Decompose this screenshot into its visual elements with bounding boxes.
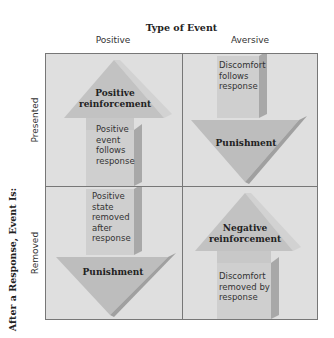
cell-label: Punishment (203, 138, 289, 149)
cell-description-line: response (219, 292, 270, 303)
consequence-matrix: Positive reinforcement Positive event fo… (45, 53, 318, 320)
cell-punishment-removed: Positive state removed after response Pu… (46, 187, 182, 319)
cell-description-line: event (96, 135, 135, 146)
row-axis-title: After a Response, Event Is: (7, 120, 18, 338)
cell-negative-reinforcement: Negative reinforcement Discomfort remove… (183, 187, 319, 319)
cell-description-line: response (219, 81, 266, 92)
cell-description-line: response (92, 233, 131, 244)
cell-description-line: removed by (219, 282, 270, 293)
cell-description-line: removed (92, 212, 131, 223)
column-label-positive: Positive (45, 35, 181, 45)
cell-description-line: Discomfort (219, 60, 266, 71)
column-label-aversive: Aversive (182, 35, 318, 45)
cell-description-line: Positive (92, 191, 131, 202)
cell-label-line: reinforcement (199, 234, 291, 245)
cell-description-line: Positive (96, 124, 135, 135)
cell-label-line: Positive (70, 88, 160, 99)
up-arrow-icon (46, 54, 182, 186)
row-label-removed: Removed (30, 186, 40, 320)
cell-description-line: after (92, 223, 131, 234)
cell-positive-reinforcement: Positive reinforcement Positive event fo… (46, 54, 182, 186)
cell-description-line: response (96, 156, 135, 167)
cell-description-line: follows (96, 145, 135, 156)
cell-description-line: follows (219, 71, 266, 82)
cell-label: Punishment (68, 267, 158, 278)
cell-label-line: reinforcement (70, 99, 160, 110)
cell-description-line: Discomfort (219, 271, 270, 282)
row-label-presented: Presented (30, 53, 40, 187)
cell-label-line: Negative (199, 223, 291, 234)
cell-description-line: state (92, 202, 131, 213)
column-axis-title: Type of Event (45, 22, 318, 33)
cell-punishment-presented: Discomfort follows response Punishment (183, 54, 319, 186)
